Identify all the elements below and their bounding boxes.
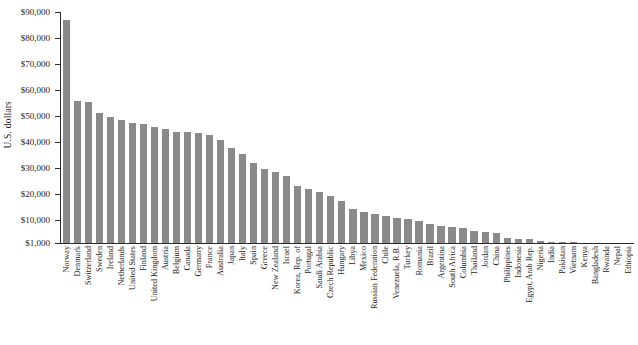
bar-slot: [491, 12, 502, 243]
bar: [63, 20, 70, 243]
bar: [382, 216, 389, 243]
x-axis-label: Germany: [193, 246, 204, 276]
x-axis-label-slot: Rwanda: [601, 246, 612, 345]
y-axis-tick: [55, 243, 61, 244]
x-axis-label: Canada: [182, 246, 193, 271]
bar-slot: [281, 12, 292, 243]
x-axis-label-slot: Pakistan: [557, 246, 568, 345]
x-axis-label: Sweden: [94, 246, 105, 272]
x-axis-label-slot: Switzerland: [83, 246, 94, 345]
bar-slot: [171, 12, 182, 243]
x-axis-label-slot: Korea, Rep. of: [292, 246, 303, 345]
x-axis-label-slot: China: [491, 246, 502, 345]
bar: [426, 224, 433, 243]
bar-series: [61, 12, 634, 243]
bar-slot: [127, 12, 138, 243]
x-axis-label-slot: Spain: [248, 246, 259, 345]
y-axis-tick-label: $10,000: [0, 215, 50, 225]
bar: [515, 239, 522, 243]
x-axis-label: Australia: [215, 246, 226, 276]
bar: [349, 209, 356, 243]
bar-slot: [568, 12, 579, 243]
y-axis-tick-label: $40,000: [0, 137, 50, 147]
x-axis-line: [60, 243, 634, 244]
bar: [239, 154, 246, 243]
x-axis-label: Brazil: [425, 246, 436, 266]
bar: [305, 189, 312, 243]
x-axis-label: China: [491, 246, 502, 266]
x-axis-label: Switzerland: [83, 246, 94, 285]
bar: [338, 201, 345, 243]
bar: [316, 192, 323, 243]
x-axis-label-slot: Czech Republic: [325, 246, 336, 345]
bar: [360, 212, 367, 243]
x-axis-label-slot: Kenya: [579, 246, 590, 345]
bar: [74, 101, 81, 243]
bar: [129, 123, 136, 243]
x-axis-label-slot: Russian Federation: [369, 246, 380, 345]
x-axis-label: Korea, Rep. of: [292, 246, 303, 294]
y-axis-tick-label: $70,000: [0, 59, 50, 69]
x-axis-label: United Kingdom: [149, 246, 160, 301]
bar: [85, 102, 92, 243]
x-axis-label-slot: Turkey: [402, 246, 413, 345]
bar-slot: [513, 12, 524, 243]
x-axis-label-slot: Egypt, Arab Rep.: [524, 246, 535, 345]
bar-slot: [414, 12, 425, 243]
bar: [206, 135, 213, 243]
bar-slot: [226, 12, 237, 243]
x-axis-label-slot: Nepal: [612, 246, 623, 345]
x-axis-label: Denmark: [72, 246, 83, 276]
x-axis-label: Romania: [414, 246, 425, 276]
bar-slot: [402, 12, 413, 243]
bar: [162, 129, 169, 243]
x-axis-label: Thailand: [469, 246, 480, 275]
bar-slot: [138, 12, 149, 243]
x-axis-label: Egypt, Arab Rep.: [524, 246, 535, 303]
plot-area: $90,000$80,000$70,000$60,000$50,000$40,0…: [60, 12, 634, 244]
bar: [570, 242, 577, 243]
x-axis-label: United States: [127, 246, 138, 290]
x-axis-label-slot: Japan: [226, 246, 237, 345]
bar-slot: [425, 12, 436, 243]
bar-slot: [83, 12, 94, 243]
x-axis-label: Russian Federation: [369, 246, 380, 309]
x-axis-label-slot: Thailand: [469, 246, 480, 345]
bar-slot: [160, 12, 171, 243]
x-axis-label: Belgium: [171, 246, 182, 274]
bar-slot: [469, 12, 480, 243]
y-axis-tick-label: $50,000: [0, 111, 50, 121]
bar-slot: [149, 12, 160, 243]
bar: [250, 163, 257, 243]
bar-slot: [590, 12, 601, 243]
bar: [272, 172, 279, 243]
bar-slot: [116, 12, 127, 243]
x-axis-label-slot: Venezuela, R.B.: [391, 246, 402, 345]
x-axis-label: India: [546, 246, 557, 263]
x-axis-label-slot: Saudi Arabia: [314, 246, 325, 345]
bar: [493, 233, 500, 243]
bar-slot: [380, 12, 391, 243]
x-axis-label: Jordan: [480, 246, 491, 268]
bar: [504, 238, 511, 243]
bar: [96, 113, 103, 243]
y-axis-tick-label: $20,000: [0, 189, 50, 199]
x-axis-label-slot: Australia: [215, 246, 226, 345]
x-axis-label-slot: Libya: [347, 246, 358, 345]
x-axis-label: New Zealand: [270, 246, 281, 290]
x-axis-label: Spain: [248, 246, 259, 265]
x-axis-label: Czech Republic: [325, 246, 336, 298]
bar: [195, 133, 202, 243]
x-axis-label-slot: Philippines: [502, 246, 513, 345]
x-axis-label: Mexico: [358, 246, 369, 271]
bar-slot: [502, 12, 513, 243]
bar: [415, 221, 422, 243]
bar-slot: [204, 12, 215, 243]
bar: [437, 226, 444, 243]
y-axis-tick-label: $90,000: [0, 7, 50, 17]
bar-slot: [259, 12, 270, 243]
y-axis-tick-label: $80,000: [0, 33, 50, 43]
x-axis-label: Chile: [380, 246, 391, 264]
bar-slot: [358, 12, 369, 243]
bar: [470, 231, 477, 243]
